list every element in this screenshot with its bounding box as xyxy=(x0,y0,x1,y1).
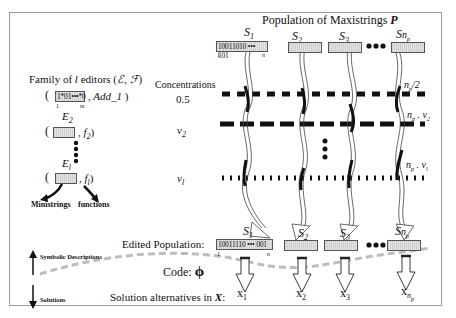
solution-x2: x2 xyxy=(296,286,306,302)
legend-symbolic-descriptions: Symbolic Descriptions xyxy=(40,253,102,260)
ministring-end-index: m xyxy=(80,103,84,109)
code-boundary-curve xyxy=(40,248,430,274)
pop-s1-label: S1 xyxy=(244,25,254,41)
editor-l-function: , fl) xyxy=(79,172,93,187)
editor-l-paren: ( xyxy=(45,170,49,185)
concentrations-heading: Concentrations xyxy=(155,79,216,90)
edited-s1-bits: 10011110 ••• 001 xyxy=(218,240,267,249)
edited-population-label: Edited Population: xyxy=(122,238,204,250)
edited-s2-string xyxy=(284,240,318,251)
wavy-arrow-1 xyxy=(242,48,270,238)
count-np-half: np/2 xyxy=(404,79,420,92)
editor-1-ministring: 1*01•••*0 xyxy=(55,91,85,102)
concentration-vl-label: vl xyxy=(177,172,184,187)
edited-s1-string: 10011110 ••• 001 xyxy=(216,239,273,250)
ministrings-label: Ministrings xyxy=(31,200,71,209)
count-np-v2: np . v2 xyxy=(407,109,430,122)
pop-s1-string: 10011010 ••• 101 xyxy=(216,41,268,52)
edited-s3-string xyxy=(324,240,358,251)
code-symbol: ϕ xyxy=(195,263,204,279)
editor-1-function: , Add_1 ) xyxy=(88,90,128,102)
edited-s1-label: S1 xyxy=(243,224,253,240)
editor-2-label: E2 xyxy=(62,110,73,125)
code-label: Code: ϕ xyxy=(163,263,204,280)
count-np-vl: np . vl xyxy=(406,159,428,172)
ministring-start-index: 1 xyxy=(56,103,59,109)
edited-s1-end-index: n xyxy=(267,251,270,257)
editors-heading: Family of l editors (ℰ, ℱ) xyxy=(29,73,142,86)
solution-x3: x3 xyxy=(340,286,350,302)
editor-l-ministring xyxy=(55,173,77,184)
editor-2-paren: ( xyxy=(45,124,49,139)
solution-x1: x1 xyxy=(237,286,247,302)
s1-end-index: n xyxy=(262,52,265,58)
solutions-label: Solution alternatives in X: xyxy=(110,291,225,303)
pop-s3-string xyxy=(328,42,362,53)
pop-snp-label: Snp xyxy=(396,27,410,42)
edited-snp-label: Snp xyxy=(395,224,409,239)
wavy-arrow-3 xyxy=(340,48,358,240)
title-text: Population of Maxistrings xyxy=(262,13,387,27)
concentration-v2-label: v2 xyxy=(177,124,186,139)
s1-bits: 10011010 ••• 101 xyxy=(218,42,267,60)
solution-xnp: xnp xyxy=(401,284,414,302)
page-title: Population of Maxistrings P xyxy=(262,13,398,28)
edited-s1-start-index: 1 xyxy=(217,251,220,257)
editor-l-label: El xyxy=(62,157,71,172)
editor-1: ( xyxy=(45,88,49,103)
concentration-0.5-label: 0.5 xyxy=(176,93,190,105)
editor-2-function: , f2) xyxy=(78,126,94,141)
pop-s2-string xyxy=(288,42,322,53)
wavy-arrow-np xyxy=(394,48,414,240)
wavy-arrow-2 xyxy=(292,48,310,240)
edited-snp-string xyxy=(387,240,421,251)
editor-2-ministring xyxy=(53,127,75,138)
s1-start-index: 1 xyxy=(217,52,220,58)
title-symbol: P xyxy=(390,13,397,27)
pop-snp-string xyxy=(391,42,425,53)
functions-label: functions xyxy=(78,200,110,209)
legend-solutions: Solutions xyxy=(40,296,66,303)
